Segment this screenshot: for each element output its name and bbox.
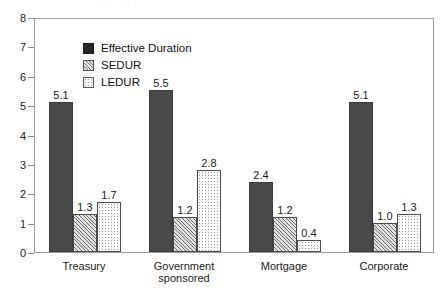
legend-label: LEDUR: [101, 77, 140, 89]
bar-value-label: 1.3: [389, 202, 429, 213]
legend-item-ledur: LEDUR: [83, 74, 192, 91]
bar-value-label: 0.4: [289, 228, 329, 239]
y-axis-tick: [28, 253, 34, 254]
bar: [373, 223, 397, 252]
bar-value-label: 2.4: [241, 170, 281, 181]
legend-label: SEDUR: [101, 60, 141, 72]
clipped-title-text: · · · · · ·: [100, 0, 350, 9]
bar: [49, 102, 73, 252]
solid-dark-square-icon: [83, 43, 94, 54]
y-axis-tick-label: 4: [6, 130, 26, 141]
y-axis-tick-label: 1: [6, 218, 26, 229]
x-axis-category-label: Corporate: [324, 260, 444, 272]
legend-item-effective-duration: Effective Duration: [83, 40, 192, 57]
y-axis-tick: [28, 77, 34, 78]
bar: [349, 102, 373, 252]
y-axis-tick: [28, 165, 34, 166]
legend-item-sedur: SEDUR: [83, 57, 192, 74]
bar: [297, 240, 321, 252]
y-axis-tick-label: 7: [6, 42, 26, 53]
y-axis-tick: [28, 18, 34, 19]
bar: [197, 170, 221, 252]
y-axis-tick: [28, 106, 34, 107]
bar: [97, 202, 121, 252]
legend-label: Effective Duration: [101, 43, 192, 55]
hatched-square-icon: [83, 60, 94, 71]
bar-chart-figure: · · · · · · 5.11.31.75.51.22.82.41.20.45…: [0, 0, 448, 292]
y-axis-tick-label: 5: [6, 101, 26, 112]
bar: [397, 214, 421, 252]
bar-value-label: 2.8: [189, 158, 229, 169]
bar: [149, 90, 173, 252]
y-axis-tick: [28, 47, 34, 48]
plot-area: 5.11.31.75.51.22.82.41.20.45.11.01.3 Eff…: [34, 18, 434, 253]
bar: [73, 214, 97, 252]
bar-value-label: 1.7: [89, 190, 129, 201]
y-axis-tick: [28, 136, 34, 137]
y-axis-tick: [28, 224, 34, 225]
y-axis-tick-label: 6: [6, 71, 26, 82]
y-axis-tick-label: 3: [6, 159, 26, 170]
y-axis-tick-label: 0: [6, 248, 26, 259]
bar-value-label: 5.1: [341, 90, 381, 101]
bar: [249, 182, 273, 253]
y-axis-tick-label: 8: [6, 13, 26, 24]
bar: [173, 217, 197, 252]
y-axis-tick: [28, 194, 34, 195]
bar-value-label: 1.2: [265, 205, 305, 216]
bar-value-label: 5.1: [41, 90, 81, 101]
chart-legend: Effective Duration SEDUR LEDUR: [83, 40, 192, 91]
y-axis-tick-label: 2: [6, 189, 26, 200]
dotted-square-icon: [83, 77, 94, 88]
